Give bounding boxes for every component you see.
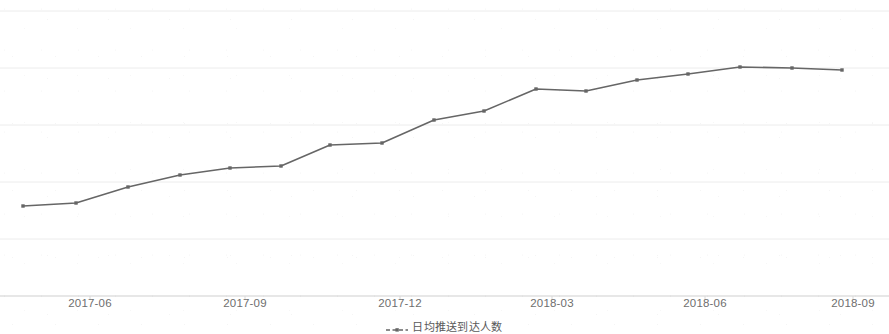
line-chart-container: 2017-062017-092017-122018-032018-062018-… <box>0 0 889 334</box>
data-point-marker[interactable] <box>126 185 129 188</box>
legend-item-series-1[interactable]: 日均推送到达人数 <box>386 318 502 334</box>
data-point-marker[interactable] <box>21 204 24 207</box>
data-point-marker[interactable] <box>738 65 741 68</box>
x-axis-tick-label: 2017-09 <box>223 296 267 310</box>
data-point-marker[interactable] <box>635 78 638 81</box>
x-axis-tick-label: 2017-06 <box>68 296 112 310</box>
data-point-marker[interactable] <box>840 68 843 71</box>
chart-legend: 日均推送到达人数 <box>0 318 889 334</box>
data-point-marker[interactable] <box>74 201 77 204</box>
plot-area <box>0 0 889 300</box>
x-axis-tick-label: 2018-03 <box>530 296 574 310</box>
legend-label-series-1: 日均推送到达人数 <box>412 318 502 334</box>
x-axis-label-row: 2017-062017-092017-122018-032018-062018-… <box>0 296 889 316</box>
data-point-marker-group[interactable] <box>21 65 843 207</box>
legend-marker-icon <box>386 321 408 331</box>
data-point-marker[interactable] <box>584 89 587 92</box>
data-point-marker[interactable] <box>432 118 435 121</box>
data-point-marker[interactable] <box>686 72 689 75</box>
gridline-group <box>0 11 889 296</box>
x-axis-tick-label: 2018-09 <box>831 296 875 310</box>
data-point-marker[interactable] <box>178 173 181 176</box>
x-axis-tick-label: 2018-06 <box>683 296 727 310</box>
data-point-marker[interactable] <box>790 66 793 69</box>
data-point-marker[interactable] <box>482 109 485 112</box>
x-axis-tick-label: 2017-12 <box>378 296 422 310</box>
data-point-marker[interactable] <box>380 141 383 144</box>
series-line-group <box>23 67 842 206</box>
data-point-marker[interactable] <box>328 143 331 146</box>
data-point-marker[interactable] <box>534 87 537 90</box>
data-point-marker[interactable] <box>279 164 282 167</box>
dashed-line-with-dot-icon <box>386 325 408 334</box>
chart-canvas <box>0 0 889 300</box>
series-line-path <box>23 67 842 206</box>
data-point-marker[interactable] <box>228 166 231 169</box>
